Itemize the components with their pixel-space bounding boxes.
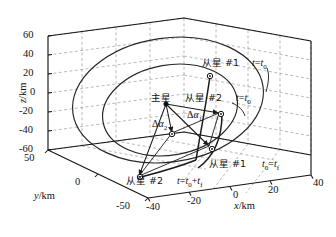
label-deputy2-end-time: t=t0+tf (177, 176, 202, 189)
y-tick-50: 50 (24, 153, 35, 164)
label-deputy2-start-time: t=t0 (236, 93, 251, 106)
z-tick-m20: -20 (19, 106, 33, 117)
label-deputy1-start-time: t=t0 (252, 58, 267, 71)
x-tick-40: 40 (313, 178, 324, 189)
label-deputy1-start: 从星 #1 (202, 58, 239, 68)
x-axis-label: x/km (234, 201, 255, 212)
x-axis-ticks (148, 175, 313, 202)
x-tick-m20: -20 (187, 196, 201, 207)
x-axis-label-unit: /km (239, 200, 255, 211)
label-deputy1-end-time: t0=tf (262, 159, 279, 172)
y-tick-m50: -50 (116, 201, 130, 212)
y-axis-label-unit: /km (39, 190, 55, 201)
label-angle-1: Δα1 (187, 110, 202, 123)
label-angle-2: Δα2 (152, 119, 167, 132)
z-axis-ticks (48, 36, 52, 151)
x-tick-0: 0 (233, 190, 238, 201)
x-tick-m40: -40 (146, 202, 160, 213)
label-deputy2-start: 从星 #2 (185, 93, 222, 103)
label-deputy2-end: 从星 #2 (126, 176, 163, 186)
z-axis-label: z/km (12, 83, 30, 103)
orbit-curve-deputy2 (95, 54, 245, 166)
label-chief: 主星 (151, 93, 171, 103)
y-axis-label: y/km (34, 191, 55, 202)
z-tick-m40: -40 (19, 125, 33, 136)
x-tick-20: 20 (268, 185, 279, 196)
label-deputy1-end: 从星 #1 (209, 159, 246, 169)
y-tick-0: 0 (75, 177, 80, 188)
z-axis-label-var: z (17, 99, 28, 103)
z-tick-60: 60 (23, 30, 34, 41)
z-tick-40: 40 (23, 49, 34, 60)
state-vectors (139, 104, 219, 176)
z-axis-label-unit: /km (17, 83, 28, 99)
figure-3d-relative-orbits: 60 40 20 0 -20 -40 -60 50 0 -50 -40 -20 … (0, 0, 336, 237)
z-tick-20: 20 (23, 68, 34, 79)
z-tick-0: 0 (30, 87, 35, 98)
